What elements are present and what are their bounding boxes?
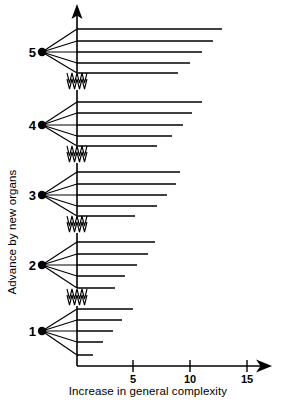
y-axis-tick-label-2: 2 [29,259,36,272]
y-axis-tick-label-3: 3 [29,189,36,202]
level-cluster-1 [38,309,133,355]
level-node-dot [38,48,46,56]
axis-break-icon [67,146,87,162]
axis-break-icon [67,216,87,232]
x-axis-title: Increase in general complexity [69,386,227,398]
y-axis-tick-label-5: 5 [29,46,36,59]
level-node-dot [38,191,46,199]
x-axis-tick-label-15: 15 [241,374,253,385]
axis-break-icon [67,289,87,305]
level-node-dot [38,261,46,269]
y-axis-tick-label-1: 1 [29,325,36,338]
level-cluster-5 [38,29,222,73]
x-axis-tick-label-10: 10 [184,374,196,385]
level-node-dot [38,327,46,335]
level-node-dot [38,121,46,129]
x-axis-tick-label-5: 5 [130,374,136,385]
level-cluster-3 [38,172,180,216]
level-cluster-4 [38,102,202,146]
level-cluster-2 [38,242,155,288]
chart-figure: 5 4 3 2 1 5 10 15 Increase in general co… [0,0,296,407]
y-axis-title: Advance by new organs [7,170,19,295]
y-axis-tick-label-4: 4 [29,119,36,132]
chart-plot-area [0,0,296,407]
axis-break-icon [67,73,87,89]
x-axis [77,360,272,373]
